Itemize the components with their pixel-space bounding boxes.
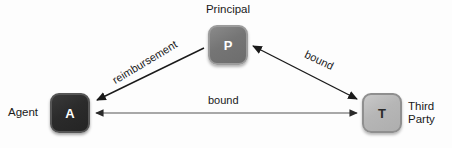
node-principal-caption: Principal [196,3,260,16]
node-third-party-caption: Third Party [408,100,435,126]
edge-label-bound-agent-third-party: bound [208,94,239,106]
node-principal[interactable]: P [208,25,248,65]
node-agent-glyph: A [65,107,74,120]
node-third-party-glyph: T [378,107,386,120]
node-third-party-caption-line2: Party [408,113,435,126]
node-principal-glyph: P [224,39,233,52]
node-third-party-caption-line1: Third [408,100,435,113]
node-third-party[interactable]: T [362,93,402,133]
node-agent[interactable]: A [50,93,90,133]
node-agent-caption: Agent [8,106,38,119]
